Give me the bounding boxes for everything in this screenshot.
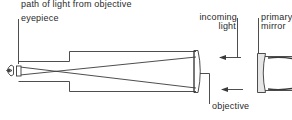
arrowhead-lower — [221, 87, 228, 92]
incoming-light-label-line2: light — [218, 22, 236, 31]
objective-label: objective — [212, 102, 249, 111]
objective-leader-line — [200, 74, 210, 105]
eyepiece-tube — [19, 62, 70, 82]
eyepiece-label: eyepiece — [21, 14, 59, 23]
path-of-light-label: path of light from objective — [21, 0, 132, 9]
arrowhead-upper — [219, 55, 226, 60]
primary-mirror-tube — [265, 57, 292, 91]
primary-mirror — [258, 54, 266, 93]
light-ray-lower — [20, 67, 196, 88]
eye-icon — [7, 65, 14, 76]
light-ray-upper — [20, 57, 196, 75]
eyepiece-lens — [17, 66, 22, 76]
primary-mirror-label-line2: mirror — [261, 22, 286, 31]
